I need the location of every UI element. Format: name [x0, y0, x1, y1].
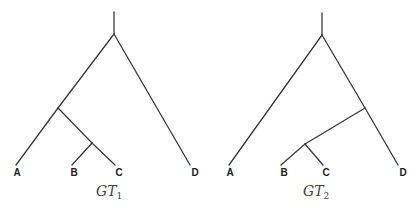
- edge-bcd-d: [365, 108, 398, 165]
- leaf-label-d: D: [399, 167, 406, 178]
- edge-bc-c: [92, 143, 115, 165]
- edge-bc-b: [281, 144, 305, 165]
- leaf-label-a: A: [13, 167, 20, 178]
- leaf-label-b: B: [70, 167, 77, 178]
- leaf-label-d: D: [191, 167, 198, 178]
- gene-trees-diagram: A B C D GT1 A B C D GT2: [0, 0, 416, 211]
- leaf-label-c: C: [115, 167, 122, 178]
- tree-caption-gt1: GT1: [96, 183, 122, 201]
- leaf-label-b: B: [280, 167, 287, 178]
- edge-abc-a: [16, 108, 58, 165]
- edge-root-abc: [58, 34, 114, 108]
- leaf-label-a: A: [226, 167, 233, 178]
- gene-tree-gt2: A B C D GT2: [226, 13, 406, 201]
- edge-root-bcd: [322, 35, 365, 108]
- edge-bc-c: [305, 144, 323, 165]
- edge-bc-b: [72, 143, 92, 165]
- gene-tree-gt1: A B C D GT1: [13, 12, 198, 201]
- edge-bcd-bc: [305, 108, 365, 144]
- tree-caption-gt2: GT2: [303, 183, 329, 201]
- edge-root-a: [229, 35, 322, 165]
- leaf-label-c: C: [322, 167, 329, 178]
- edge-abc-bc: [58, 108, 92, 143]
- edge-root-d: [114, 34, 190, 165]
